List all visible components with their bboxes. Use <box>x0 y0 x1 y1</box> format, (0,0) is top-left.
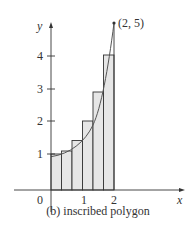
rect-6 <box>104 55 115 190</box>
y-tick-1: 1 <box>37 147 43 161</box>
rect-2 <box>62 151 73 190</box>
y-axis-label: y <box>36 19 43 33</box>
y-axis-arrow-icon <box>49 22 53 28</box>
rect-1 <box>51 154 62 190</box>
figure-caption: (b) inscribed polygon <box>0 204 196 219</box>
y-tick-2: 2 <box>37 114 43 128</box>
y-tick-3: 3 <box>37 82 43 96</box>
inscribed-polygon-figure: (2, 5) y x 1 2 3 4 0 1 2 <box>0 0 196 229</box>
x-axis-arrow-icon <box>179 188 185 192</box>
point-2-5 <box>112 21 115 24</box>
inscribed-rectangles <box>51 55 114 190</box>
rect-4 <box>83 121 94 190</box>
point-label: (2, 5) <box>118 16 144 30</box>
rect-5 <box>93 92 104 190</box>
y-tick-4: 4 <box>37 49 43 63</box>
